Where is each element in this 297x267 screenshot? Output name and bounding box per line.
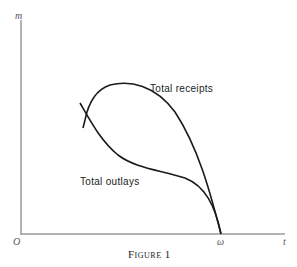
x-axis-label: t bbox=[283, 236, 286, 247]
figure-caption: Figure 1 bbox=[128, 248, 171, 260]
total-receipts-label: Total receipts bbox=[150, 83, 213, 94]
figure-canvas bbox=[0, 0, 297, 267]
omega-label: ω bbox=[217, 236, 224, 247]
origin-label: O bbox=[13, 236, 20, 247]
total-outlays-label: Total outlays bbox=[80, 176, 140, 187]
y-axis-label: m bbox=[15, 10, 22, 21]
total-outlays-curve bbox=[80, 103, 221, 234]
total-receipts-curve bbox=[83, 83, 221, 234]
